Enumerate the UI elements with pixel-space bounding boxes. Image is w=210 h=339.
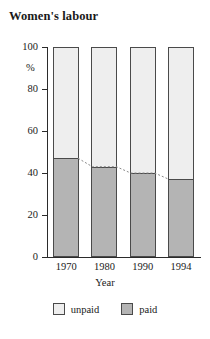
bar-segment-unpaid — [91, 47, 117, 168]
legend-swatch-unpaid — [53, 303, 65, 315]
bar-group — [130, 47, 156, 257]
chart-figure: Women's labour % 020406080100 1970198019… — [0, 0, 210, 339]
chart-legend: unpaidpaid — [0, 303, 210, 315]
y-axis-tick-label: 100 — [4, 42, 38, 52]
legend-label: unpaid — [71, 304, 100, 315]
legend-item: unpaid — [53, 303, 100, 315]
chart-title: Women's labour — [9, 9, 98, 24]
y-axis-tick-label: 80 — [4, 84, 38, 94]
x-axis-title: Year — [0, 277, 210, 288]
bar-group — [91, 47, 117, 257]
bar-segment-unpaid — [168, 47, 194, 180]
plot-area — [47, 47, 200, 257]
bar-segment-paid — [168, 179, 194, 257]
bar-group — [168, 47, 194, 257]
bar-segment-paid — [91, 167, 117, 257]
y-axis-tick-label: 20 — [4, 210, 38, 220]
bar-segment-unpaid — [130, 47, 156, 174]
y-axis-title: % — [26, 63, 35, 73]
bar-segment-unpaid — [53, 47, 79, 159]
legend-label: paid — [139, 304, 157, 315]
y-axis-tick-label: 40 — [4, 168, 38, 178]
bar-segment-paid — [130, 173, 156, 257]
bar-segment-paid — [53, 158, 79, 257]
y-axis-tick-label: 60 — [4, 126, 38, 136]
x-axis-tick-label: 1994 — [158, 261, 204, 272]
legend-swatch-paid — [121, 303, 133, 315]
y-axis-tick-label: 0 — [4, 252, 38, 262]
x-axis-line — [47, 257, 201, 258]
bar-group — [53, 47, 79, 257]
y-axis-tick — [42, 257, 47, 258]
legend-item: paid — [121, 303, 157, 315]
